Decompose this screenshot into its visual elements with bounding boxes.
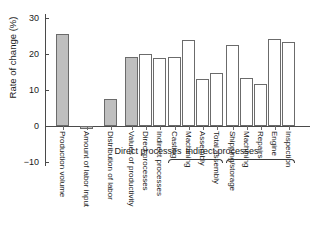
bar: [153, 58, 166, 126]
bar: [196, 79, 209, 126]
bar: [226, 45, 239, 126]
bar: [104, 99, 117, 126]
category-label: Indirect processes: [155, 131, 163, 196]
x-tick-mark: [132, 126, 133, 130]
y-tick-label: 0: [34, 122, 39, 131]
y-tick-label: 20: [29, 50, 39, 59]
group-bracket: [168, 159, 223, 163]
group-title: Indirect processes: [185, 147, 258, 156]
bar: [168, 57, 181, 126]
x-tick-mark: [247, 126, 248, 130]
x-tick-mark: [111, 126, 112, 130]
x-tick-mark: [189, 126, 190, 130]
bar: [210, 73, 223, 126]
bar: [268, 39, 281, 126]
bar: [254, 84, 267, 126]
bar: [56, 34, 69, 126]
bar: [139, 54, 152, 126]
y-tick-label-wrap: 0: [0, 122, 43, 131]
y-tick-label-wrap: 10: [0, 86, 43, 95]
y-tick-label-wrap: 30: [0, 14, 43, 23]
category-label: Production volume: [58, 131, 66, 197]
category-label: Engine: [270, 131, 278, 156]
y-tick-label: −10: [24, 158, 39, 167]
x-tick-mark: [217, 126, 218, 130]
x-tick-mark: [160, 126, 161, 130]
y-tick-mark: [45, 162, 49, 163]
x-tick-mark: [87, 126, 88, 130]
group-bracket: [226, 159, 295, 163]
chart-figure: Rate of change (%) 3020100−10 Production…: [0, 0, 315, 245]
category-label: Distribution of labor: [106, 131, 114, 200]
group-title: Direct processes: [114, 147, 181, 156]
x-tick-mark: [233, 126, 234, 130]
x-tick-mark: [261, 126, 262, 130]
y-tick-label-wrap: 20: [0, 50, 43, 59]
y-tick-label-wrap: −10: [0, 158, 43, 167]
y-tick-label: 30: [29, 14, 39, 23]
bar: [125, 57, 138, 126]
category-label: Values of productivity: [127, 131, 135, 206]
category-label: Direct processes: [141, 131, 149, 191]
x-tick-mark: [203, 126, 204, 130]
bar: [182, 40, 195, 126]
bar-plot-area: [45, 14, 310, 126]
bar: [282, 42, 295, 126]
y-tick-label: 10: [29, 86, 39, 95]
category-label: Amount of labor input: [82, 131, 90, 207]
x-tick-mark: [63, 126, 64, 130]
x-tick-mark: [289, 126, 290, 130]
x-tick-mark: [175, 126, 176, 130]
bar: [240, 78, 253, 126]
x-tick-mark: [275, 126, 276, 130]
x-tick-mark: [146, 126, 147, 130]
category-label: Total assembly: [212, 131, 220, 184]
